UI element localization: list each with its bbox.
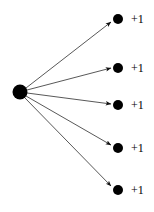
edges-group [25,22,111,186]
edge-to-branch-4 [26,96,111,145]
edge-to-branch-5 [25,98,111,186]
edge-to-branch-2 [27,68,111,90]
branch-node-4[interactable] [113,143,123,153]
nodes-group [13,14,124,195]
branch-node-2[interactable] [113,63,123,73]
edge-to-branch-1 [26,22,111,88]
reward-label-5: +1 [131,184,144,196]
edge-to-branch-3 [27,93,111,104]
branch-node-1[interactable] [113,14,123,24]
reward-label-4: +1 [131,142,144,154]
branch-node-5[interactable] [113,185,123,195]
source-node[interactable] [13,85,28,100]
diagram-canvas: +1 +1 +1 +1 +1 [0,0,154,212]
reward-label-1: +1 [131,13,144,25]
branch-node-3[interactable] [113,100,123,110]
reward-label-2: +1 [131,62,144,74]
reward-label-3: +1 [131,99,144,111]
